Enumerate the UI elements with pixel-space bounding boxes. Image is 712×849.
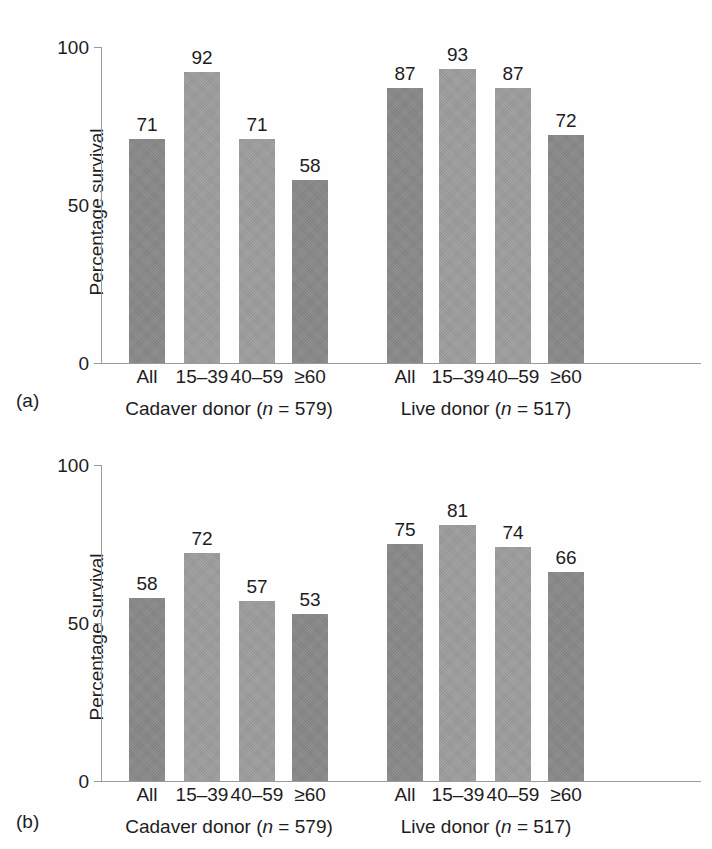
group-label-a-cadaver: Cadaver donor (n = 579) xyxy=(125,399,333,418)
bar-a-live-40-59: 87 xyxy=(495,88,531,363)
bar-value-label: 74 xyxy=(502,523,523,542)
bar-value-label: 87 xyxy=(502,64,523,83)
bar-value-label: 57 xyxy=(246,577,267,596)
x-label-b-live-15-39: 15–39 xyxy=(432,785,485,804)
group-label-b-live: Live donor (n = 517) xyxy=(401,817,572,836)
plot-area-a: 100 50 0 71 92 71 58 87 93 xyxy=(101,47,701,363)
y-tick-label-50: 50 xyxy=(68,196,89,215)
bar-value-label: 81 xyxy=(447,501,468,520)
bar-b-cadaver-all: 58 xyxy=(129,598,165,781)
bar-value-label: 71 xyxy=(246,115,267,134)
bar-value-label: 87 xyxy=(394,64,415,83)
group-label-a-live: Live donor (n = 517) xyxy=(401,399,572,418)
y-tick-50 xyxy=(94,205,101,206)
x-label-a-live-60plus: ≥60 xyxy=(550,367,582,386)
y-tick-label-0: 0 xyxy=(78,354,89,373)
bar-a-cadaver-40-59: 71 xyxy=(239,139,275,363)
y-axis-line xyxy=(101,465,102,781)
y-tick-label-0: 0 xyxy=(78,772,89,791)
y-axis-line xyxy=(101,47,102,363)
y-tick-100 xyxy=(94,47,101,48)
group-label-count: = 579) xyxy=(273,816,333,837)
y-tick-label-100: 100 xyxy=(57,456,89,475)
bar-a-cadaver-15-39: 92 xyxy=(184,72,220,363)
group-label-n: n xyxy=(501,398,512,419)
bar-b-live-40-59: 74 xyxy=(495,547,531,781)
x-label-a-live-40-59: 40–59 xyxy=(487,367,540,386)
bar-value-label: 75 xyxy=(394,520,415,539)
group-label-n: n xyxy=(263,398,274,419)
figure-survival-bar-charts: Percentage survival 100 50 0 71 92 71 58 xyxy=(0,0,712,849)
bar-a-live-15-39: 93 xyxy=(439,69,476,363)
bar-value-label: 71 xyxy=(136,115,157,134)
bar-b-cadaver-40-59: 57 xyxy=(239,601,275,781)
y-tick-100 xyxy=(94,465,101,466)
x-label-a-cadaver-15-39: 15–39 xyxy=(176,367,229,386)
group-label-text: Live donor ( xyxy=(401,398,501,419)
x-label-a-cadaver-40-59: 40–59 xyxy=(231,367,284,386)
x-label-b-live-60plus: ≥60 xyxy=(550,785,582,804)
chart-panel-a: Percentage survival 100 50 0 71 92 71 58 xyxy=(0,0,712,424)
group-label-count: = 517) xyxy=(512,398,572,419)
x-label-b-cadaver-40-59: 40–59 xyxy=(231,785,284,804)
group-label-text: Cadaver donor ( xyxy=(125,398,262,419)
x-axis-line xyxy=(101,363,701,364)
y-tick-0 xyxy=(94,363,101,364)
bar-a-live-60plus: 72 xyxy=(548,135,584,363)
bar-value-label: 92 xyxy=(191,48,212,67)
x-label-b-live-all: All xyxy=(394,785,415,804)
y-tick-50 xyxy=(94,623,101,624)
group-label-count: = 517) xyxy=(512,816,572,837)
x-label-b-cadaver-15-39: 15–39 xyxy=(176,785,229,804)
bar-a-cadaver-all: 71 xyxy=(129,139,165,363)
bar-a-cadaver-60plus: 58 xyxy=(292,180,328,363)
x-label-b-cadaver-all: All xyxy=(136,785,157,804)
bar-value-label: 93 xyxy=(447,45,468,64)
bar-value-label: 58 xyxy=(136,574,157,593)
bar-value-label: 72 xyxy=(555,111,576,130)
chart-panel-b: Percentage survival 100 50 0 58 72 57 53 xyxy=(0,425,712,849)
y-tick-0 xyxy=(94,781,101,782)
group-label-text: Cadaver donor ( xyxy=(125,816,262,837)
plot-area-b: 100 50 0 58 72 57 53 75 81 xyxy=(101,465,701,781)
x-label-a-cadaver-60plus: ≥60 xyxy=(294,367,326,386)
bar-a-live-all: 87 xyxy=(387,88,423,363)
x-label-a-live-all: All xyxy=(394,367,415,386)
x-label-b-live-40-59: 40–59 xyxy=(487,785,540,804)
bar-value-label: 53 xyxy=(299,590,320,609)
bar-b-cadaver-15-39: 72 xyxy=(184,553,220,781)
bar-value-label: 72 xyxy=(191,529,212,548)
bar-b-live-15-39: 81 xyxy=(439,525,476,781)
panel-tag-a: (a) xyxy=(16,391,39,410)
x-label-a-cadaver-all: All xyxy=(136,367,157,386)
y-tick-label-50: 50 xyxy=(68,614,89,633)
x-axis-line xyxy=(101,781,701,782)
group-label-text: Live donor ( xyxy=(401,816,501,837)
x-label-b-cadaver-60plus: ≥60 xyxy=(294,785,326,804)
bar-value-label: 58 xyxy=(299,156,320,175)
bar-b-live-all: 75 xyxy=(387,544,423,781)
bar-b-cadaver-60plus: 53 xyxy=(292,614,328,781)
group-label-b-cadaver: Cadaver donor (n = 579) xyxy=(125,817,333,836)
group-label-n: n xyxy=(263,816,274,837)
panel-tag-b: (b) xyxy=(16,812,39,831)
x-label-a-live-15-39: 15–39 xyxy=(432,367,485,386)
bar-b-live-60plus: 66 xyxy=(548,572,584,781)
group-label-count: = 579) xyxy=(273,398,333,419)
bar-value-label: 66 xyxy=(555,548,576,567)
group-label-n: n xyxy=(501,816,512,837)
y-tick-label-100: 100 xyxy=(57,38,89,57)
